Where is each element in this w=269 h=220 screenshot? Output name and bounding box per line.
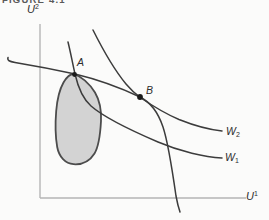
- point-a-label: A: [77, 57, 84, 68]
- point-b-label: B: [146, 85, 153, 96]
- point-b-dot: [137, 94, 143, 100]
- w1-label: W1: [225, 152, 239, 164]
- x-axis-label: U1: [246, 190, 258, 202]
- point-a-dot: [72, 72, 77, 77]
- figure-canvas: [0, 0, 269, 220]
- welfare-economics-figure: FIGURE 4.1 U2 U1 A B W2 W1: [0, 0, 269, 220]
- w2-label: W2: [226, 126, 240, 138]
- y-axis-label: U2: [27, 3, 39, 15]
